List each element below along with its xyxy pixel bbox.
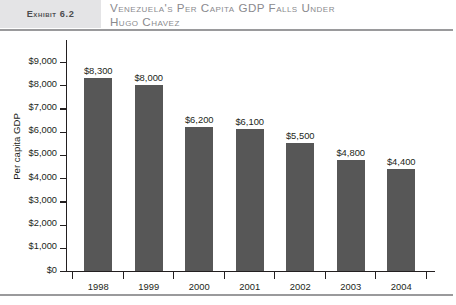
y-axis-tick [60,155,66,156]
x-axis-tick [72,272,73,279]
bar-value-label: $4,800 [325,147,377,158]
y-axis-tick-label: $9,000 [29,56,57,66]
x-axis-tick [375,272,376,279]
y-axis-tick [60,85,66,86]
exhibit-title: Venezuela's Per Capita GDP Falls Under H… [110,1,450,28]
y-axis-tick [60,132,66,133]
y-axis-tick [60,248,66,249]
y-axis-tick-label: $4,000 [29,172,57,182]
x-axis-tick [173,272,174,279]
bar [286,143,314,271]
x-axis-label: 2003 [325,281,377,292]
plot-area: $0$1,000$2,000$3,000$4,000$5,000$6,000$7… [66,40,435,272]
y-axis-tick-label: $1,000 [29,241,57,251]
y-axis-tick [60,62,66,63]
exhibit-header: Exhibit 6.2 Venezuela's Per Capita GDP F… [0,0,456,30]
x-axis-tick [224,272,225,279]
x-axis-label: 1998 [72,281,124,292]
y-axis-tick-label: $7,000 [29,102,57,112]
x-axis-label: 2000 [173,281,225,292]
y-axis-tick-label: $6,000 [29,125,57,135]
y-axis-tick [60,271,66,272]
x-axis-label: 2004 [375,281,427,292]
y-axis-title: Per capita GDP [11,97,22,197]
y-axis-tick [60,178,66,179]
bar-chart: Per capita GDP $0$1,000$2,000$3,000$4,00… [0,31,456,289]
x-axis-tick [274,272,275,279]
y-axis-tick-label: $8,000 [29,79,57,89]
y-axis-tick [60,225,66,226]
bar-value-label: $4,400 [375,156,427,167]
x-axis-tick [325,272,326,279]
bar [236,129,264,271]
bar [387,169,415,271]
footer-divider [0,294,453,296]
bar [135,85,163,271]
y-axis-tick-label: $0 [47,265,57,275]
y-axis-tick-label: $3,000 [29,195,57,205]
bar [84,78,112,271]
y-axis-line [66,40,67,272]
bar-value-label: $8,000 [123,72,175,83]
x-axis-tick [123,272,124,279]
exhibit-number-label: Exhibit 6.2 [0,0,101,28]
bar-value-label: $6,100 [224,116,276,127]
x-axis-line [66,271,435,272]
bar [185,127,213,271]
bar [337,160,365,271]
bar-value-label: $6,200 [173,114,225,125]
y-axis-tick [60,201,66,202]
bar-value-label: $5,500 [274,130,326,141]
x-axis-label: 2002 [274,281,326,292]
y-axis-tick-label: $5,000 [29,148,57,158]
x-axis-label: 2001 [224,281,276,292]
x-axis-label: 1999 [123,281,175,292]
x-axis-tick [426,272,427,279]
y-axis-tick-label: $2,000 [29,218,57,228]
bar-value-label: $8,300 [72,65,124,76]
y-axis-tick [60,108,66,109]
